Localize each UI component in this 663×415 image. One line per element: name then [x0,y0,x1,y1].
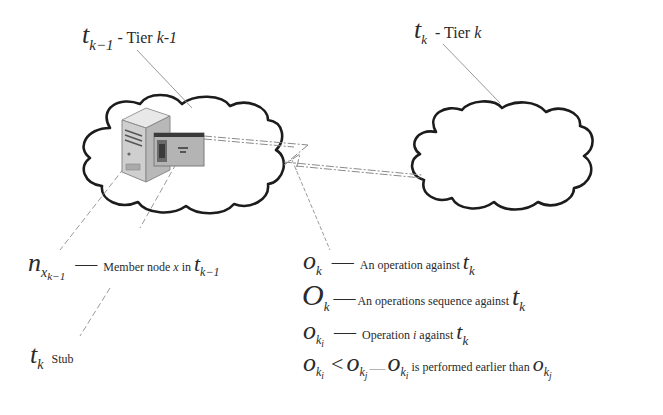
tier-curr-label: tk - Tier k [414,17,481,46]
stub-window-icon [154,133,204,166]
legend-order: oki <okj——oki is performed earlier than … [303,350,552,381]
member-node-label: nxk−1 —Member node x in tk−1 [28,250,220,283]
tier-prev-label: tk−1 - Tier k-1 [82,22,177,53]
stub-label: tk Stub [30,342,73,372]
tier-diagram: tk−1 - Tier k-1 tk - Tier k nxk−1 —Membe… [0,0,663,415]
legend-op-sequence: Ok—An operations sequence against tk [302,280,525,313]
legend-op: ok —An operation against tk [303,248,475,277]
cloud-icon-tier-curr [412,101,592,209]
legend-op-i: oki —Operation i against tk [303,318,468,349]
